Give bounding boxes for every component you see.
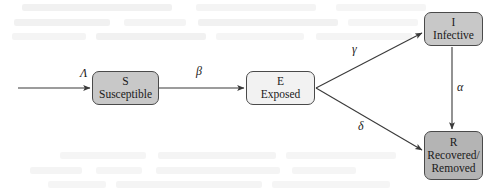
arrow-exposed-to-infective	[316, 33, 422, 88]
node-recovered-symbol: R	[450, 136, 458, 149]
node-recovered-label-line1: Recovered/	[427, 149, 479, 162]
node-recovered-label-line2: Removed	[431, 162, 475, 175]
edge-label-beta: β	[196, 64, 202, 79]
node-recovered[interactable]: R Recovered/ Removed	[424, 131, 483, 180]
node-susceptible[interactable]: S Susceptible	[92, 71, 159, 105]
node-infective-label: Infective	[433, 29, 474, 42]
node-exposed-symbol: E	[277, 75, 284, 88]
node-exposed[interactable]: E Exposed	[246, 71, 315, 105]
node-susceptible-label: Susceptible	[99, 88, 152, 101]
node-infective-symbol: I	[452, 16, 456, 29]
seir-diagram-canvas: S Susceptible E Exposed I Infective R Re…	[0, 0, 493, 194]
edge-label-gamma: γ	[352, 42, 357, 57]
edge-label-alpha: α	[457, 80, 463, 95]
node-infective[interactable]: I Infective	[424, 12, 483, 46]
node-exposed-label: Exposed	[261, 88, 301, 101]
edge-label-delta: δ	[358, 119, 364, 134]
arrow-exposed-to-recovered	[316, 88, 422, 150]
edge-label-lambda: Λ	[80, 66, 87, 81]
node-susceptible-symbol: S	[122, 75, 128, 88]
